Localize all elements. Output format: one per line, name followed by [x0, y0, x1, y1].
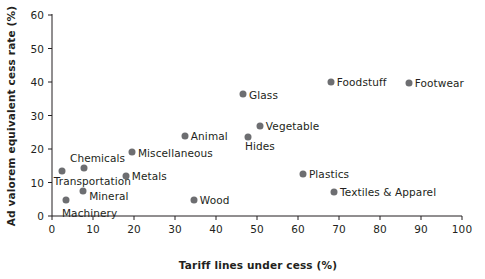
- x-axis-title: Tariff lines under cess (%): [179, 259, 337, 271]
- data-point-label: Footwear: [415, 77, 464, 89]
- data-point-marker[interactable]: [122, 173, 129, 180]
- plot-area: 01020304050607080901000102030405060 Tran…: [0, 0, 485, 279]
- x-tick-label: 0: [49, 223, 56, 235]
- x-tick-label: 40: [209, 223, 223, 235]
- data-point-label: Hides: [245, 140, 275, 152]
- x-tick-label: 10: [86, 223, 100, 235]
- data-point-label: Machinery: [62, 207, 117, 219]
- x-tick-label: 50: [250, 223, 264, 235]
- data-point-marker[interactable]: [256, 122, 263, 129]
- data-point-marker[interactable]: [80, 187, 87, 194]
- data-point-label: Metals: [132, 170, 167, 182]
- data-point-label: Chemicals: [70, 152, 125, 164]
- data-point-marker[interactable]: [327, 79, 334, 86]
- data-point-marker[interactable]: [181, 132, 188, 139]
- data-point-marker[interactable]: [62, 196, 69, 203]
- data-point-label: Plastics: [309, 168, 349, 180]
- data-point-marker[interactable]: [299, 171, 306, 178]
- x-tick-label: 90: [414, 223, 428, 235]
- x-tick-label: 80: [373, 223, 387, 235]
- data-point-label: Textiles & Apparel: [340, 186, 436, 198]
- y-axis-title: Ad valorem equivalent cess rate (%): [5, 6, 17, 226]
- x-tick-label: 30: [168, 223, 182, 235]
- data-point-label: Wood: [200, 194, 230, 206]
- x-tick-label: 100: [452, 223, 472, 235]
- data-point-marker[interactable]: [190, 196, 197, 203]
- data-point-marker[interactable]: [240, 91, 247, 98]
- data-point-label: Transportation: [54, 175, 131, 187]
- data-point-marker[interactable]: [405, 80, 412, 87]
- chart-axes: [0, 0, 485, 279]
- data-point-label: Miscellaneous: [138, 147, 213, 159]
- data-point-marker[interactable]: [58, 168, 65, 175]
- data-point-marker[interactable]: [331, 188, 338, 195]
- data-point-label: Vegetable: [266, 120, 319, 132]
- scatter-chart: 01020304050607080901000102030405060 Tran…: [0, 0, 485, 279]
- data-point-label: Animal: [191, 130, 228, 142]
- data-point-marker[interactable]: [128, 149, 135, 156]
- data-point-marker[interactable]: [80, 165, 87, 172]
- x-tick-label: 20: [127, 223, 141, 235]
- x-tick-label: 60: [291, 223, 305, 235]
- x-tick-label: 70: [332, 223, 346, 235]
- data-point-label: Mineral: [89, 190, 128, 202]
- data-point-label: Glass: [249, 89, 278, 101]
- data-point-label: Foodstuff: [337, 76, 387, 88]
